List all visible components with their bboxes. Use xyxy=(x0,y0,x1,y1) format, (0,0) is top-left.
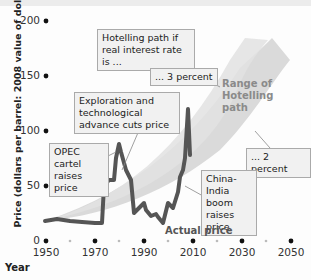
x-tick-1950: 1950 xyxy=(26,246,66,258)
opec-callout: OPEC cartel raises price xyxy=(49,143,109,197)
x-tick-2050: 2050 xyxy=(271,246,311,258)
x-tick-2010: 2010 xyxy=(173,246,213,258)
range-label-line1: Range of xyxy=(222,78,273,90)
y-tick-150: 150 xyxy=(10,69,40,81)
hotelling-callout: Hotelling path if real interest rate is … xyxy=(97,29,195,71)
x-axis-label: Year xyxy=(5,262,30,273)
leader-exploration xyxy=(122,128,140,170)
exploration-callout: Exploration and technological advance cu… xyxy=(74,92,180,134)
y-tick-200: 200 xyxy=(10,14,40,26)
x-tick-1970: 1970 xyxy=(75,246,115,258)
three-percent-callout: ... 3 percent xyxy=(150,68,218,86)
range-label-line3: path xyxy=(222,102,273,114)
y-tick-50: 50 xyxy=(10,179,40,191)
y-tick-0: 0 xyxy=(10,234,40,246)
x-tick-1990: 1990 xyxy=(124,246,164,258)
y-axis-label: Price (dollars per barrel: 2008 value of… xyxy=(12,18,23,228)
leader-two-percent xyxy=(255,131,270,148)
y-axis-ticks xyxy=(44,19,49,244)
actual-price-label: Actual price xyxy=(165,225,232,236)
x-tick-2030: 2030 xyxy=(222,246,262,258)
x-axis-ticks xyxy=(69,239,294,244)
y-tick-100: 100 xyxy=(10,124,40,136)
range-of-hotelling-label: Range of Hotelling path xyxy=(222,78,273,114)
range-label-line2: Hotelling xyxy=(222,90,273,102)
